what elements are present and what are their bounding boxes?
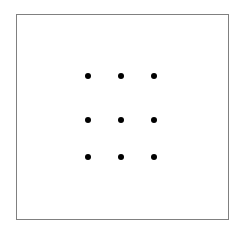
dot-r1-c2 xyxy=(118,73,124,79)
dot-r2-c3 xyxy=(151,117,157,123)
dot-r3-c2 xyxy=(118,154,124,160)
dot-r3-c1 xyxy=(85,154,91,160)
dot-r1-c3 xyxy=(151,73,157,79)
dot-grid xyxy=(0,0,245,237)
figure-canvas xyxy=(0,0,245,237)
dot-r3-c3 xyxy=(151,154,157,160)
dot-r2-c2 xyxy=(118,117,124,123)
dot-r2-c1 xyxy=(85,117,91,123)
dot-r1-c1 xyxy=(85,73,91,79)
